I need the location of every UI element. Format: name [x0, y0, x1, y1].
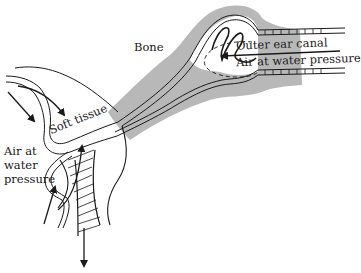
label-air-water-pressure-left-1: Air at: [4, 144, 37, 158]
throat-right-wall: [108, 126, 126, 225]
label-bone: Bone: [134, 40, 164, 54]
arrow-upper-left-1: [8, 92, 34, 121]
throat-hatching: [68, 150, 100, 236]
arrow-lower-left: [44, 187, 55, 224]
label-air-water-pressure-left-2: water: [4, 158, 38, 172]
label-air-water-pressure-left-3: pressure: [4, 172, 55, 186]
